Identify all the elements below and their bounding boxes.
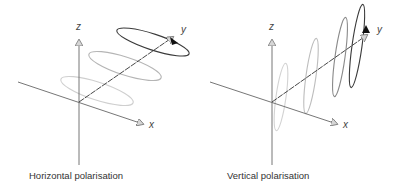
x-axis	[210, 82, 337, 124]
wave-loop	[271, 63, 290, 132]
propagation-arrow-icon	[170, 37, 178, 45]
propagation-arrow-icon	[362, 25, 370, 33]
vertical-panel: z x y	[210, 4, 383, 165]
wave-loop	[301, 38, 321, 115]
vertical-wave	[271, 4, 367, 132]
y-axis	[79, 37, 173, 102]
horizontal-caption: Horizontal polarisation	[29, 170, 123, 181]
polarisation-diagram: z x y z x y	[0, 0, 399, 193]
y-axis-label: y	[180, 24, 187, 35]
horizontal-wave	[58, 23, 192, 112]
vertical-caption: Vertical polarisation	[227, 170, 309, 181]
z-axis-label: z	[75, 21, 81, 32]
x-axis	[18, 82, 143, 124]
y-axis	[272, 35, 367, 102]
x-axis-label: x	[342, 119, 349, 130]
x-axis-label: x	[148, 119, 155, 130]
y-axis-label: y	[376, 24, 383, 35]
horizontal-panel: z x y	[18, 21, 192, 165]
z-axis-label: z	[268, 21, 274, 32]
wave-loop	[329, 17, 350, 98]
wave-loop	[346, 4, 368, 89]
wave-loop	[58, 71, 136, 112]
